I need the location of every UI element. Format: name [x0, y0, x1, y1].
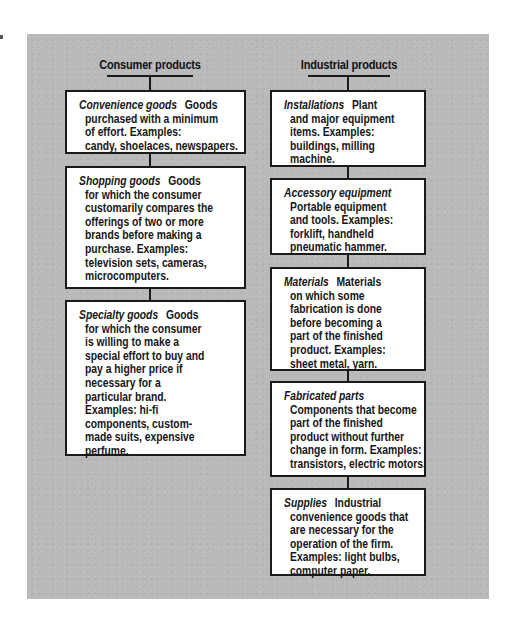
box-line: computer paper. [284, 565, 434, 579]
term-definition-start: Plant [352, 98, 377, 112]
box-line: for which the consumer [79, 189, 254, 203]
consumer-box-specialty-goods: Specialty goodsGoods for which the consu… [65, 300, 246, 456]
box-line: on which some [284, 290, 434, 304]
box-content: SuppliesIndustrial convenience goods tha… [284, 497, 434, 579]
box-line: forklift, handheld [284, 228, 434, 242]
box-line: of effort. Examples: [79, 126, 254, 140]
box-line: pay a higher price if [79, 363, 254, 377]
industrial-box-fabricated-parts: Fabricated parts Components that become … [270, 381, 426, 477]
box-line: and tools. Examples: [284, 214, 434, 228]
box-line: perfume. [79, 445, 254, 459]
industrial-connector-0 [347, 75, 349, 91]
box-line: special effort to buy and [79, 350, 254, 364]
box-first-line: InstallationsPlant [284, 99, 434, 113]
box-line: necessary for a [79, 377, 254, 391]
term-definition-start: Materials [336, 275, 381, 289]
box-line: and major equipment [284, 113, 434, 127]
box-content: Specialty goodsGoods for which the consu… [79, 309, 254, 459]
box-line: purchase. Examples: [79, 243, 254, 257]
industrial-connector-2 [347, 253, 349, 268]
term-label: Installations [284, 98, 344, 112]
box-content: Accessory equipment Portable equipment a… [284, 187, 434, 255]
box-line: customarily compares the [79, 202, 254, 216]
box-line: television sets, cameras, [79, 257, 254, 271]
box-first-line: MaterialsMaterials [284, 276, 434, 290]
box-first-line: SuppliesIndustrial [284, 497, 434, 511]
box-line: part of the finished [284, 417, 434, 431]
box-content: MaterialsMaterials on which some fabrica… [284, 276, 434, 371]
box-line: buildings, milling [284, 140, 434, 154]
consumer-connector-0 [149, 75, 151, 91]
box-line: product. Examples: [284, 344, 434, 358]
industrial-header-rule [308, 75, 390, 77]
consumer-box-shopping-goods: Shopping goodsGoods for which the consum… [65, 166, 246, 289]
box-content: InstallationsPlant and major equipment i… [284, 99, 434, 167]
consumer-connector-1 [149, 152, 151, 167]
box-line: are necessary for the [284, 524, 434, 538]
box-line: transistors, electric motors. [284, 458, 434, 472]
industrial-products-header: Industrial products [297, 58, 401, 72]
term-definition-start: Industrial [335, 496, 381, 510]
consumer-connector-2 [149, 287, 151, 301]
term-label: Materials [284, 275, 329, 289]
term-label: Supplies [284, 496, 327, 510]
box-line: candy, shoelaces, newspapers. [79, 140, 254, 154]
industrial-box-materials: MaterialsMaterials on which some fabrica… [270, 267, 426, 371]
box-first-line: Specialty goodsGoods [79, 309, 254, 323]
box-content: Convenience goodsGoods purchased with a … [79, 99, 254, 153]
term-label: Fabricated parts [284, 389, 364, 403]
box-line: Components that become [284, 404, 434, 418]
box-line: pneumatic hammer. [284, 241, 434, 255]
box-line: for which the consumer [79, 323, 254, 337]
term-label: Shopping goods [79, 174, 160, 188]
industrial-box-supplies: SuppliesIndustrial convenience goods tha… [270, 488, 426, 576]
box-line: machine. [284, 153, 434, 167]
consumer-products-header: Consumer products [99, 58, 201, 72]
term-definition-start: Goods [166, 308, 199, 322]
box-first-line: Fabricated parts [284, 390, 434, 404]
box-line: purchased with a minimum [79, 113, 254, 127]
box-line: brands before making a [79, 229, 254, 243]
box-line: is willing to make a [79, 336, 254, 350]
box-line: components, custom- [79, 418, 254, 432]
box-line: items. Examples: [284, 126, 434, 140]
box-line: Portable equipment [284, 201, 434, 215]
term-label: Specialty goods [79, 308, 158, 322]
box-content: Shopping goodsGoods for which the consum… [79, 175, 254, 284]
box-first-line: Convenience goodsGoods [79, 99, 254, 113]
industrial-box-installations: InstallationsPlant and major equipment i… [270, 90, 426, 167]
box-content: Fabricated parts Components that become … [284, 390, 434, 472]
page-edge-mark [0, 35, 3, 39]
consumer-box-convenience-goods: Convenience goodsGoods purchased with a … [65, 90, 246, 154]
box-line: Examples: hi-fi [79, 404, 254, 418]
term-definition-start: Goods [185, 98, 218, 112]
box-first-line: Accessory equipment [284, 187, 434, 201]
box-line: particular brand. [79, 391, 254, 405]
box-line: sheet metal, yarn. [284, 358, 434, 372]
term-label: Accessory equipment [284, 186, 391, 200]
box-line: made suits, expensive [79, 431, 254, 445]
box-line: offerings of two or more [79, 216, 254, 230]
box-line: change in form. Examples: [284, 444, 434, 458]
box-line: operation of the firm. [284, 538, 434, 552]
box-line: microcomputers. [79, 270, 254, 284]
term-label: Convenience goods [79, 98, 177, 112]
industrial-connector-1 [347, 165, 349, 179]
box-line: Examples: light bulbs, [284, 551, 434, 565]
box-line: convenience goods that [284, 511, 434, 525]
box-line: fabrication is done [284, 303, 434, 317]
box-line: before becoming a [284, 317, 434, 331]
box-line: product without further [284, 431, 434, 445]
industrial-box-accessory-equipment: Accessory equipment Portable equipment a… [270, 178, 426, 255]
term-definition-start: Goods [168, 174, 201, 188]
box-line: part of the finished [284, 330, 434, 344]
box-first-line: Shopping goodsGoods [79, 175, 254, 189]
